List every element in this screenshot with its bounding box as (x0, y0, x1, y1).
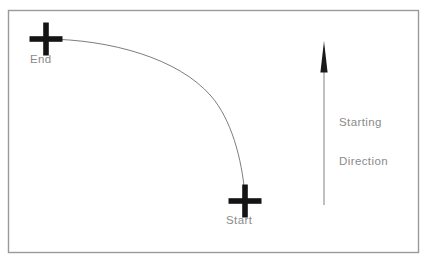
end-marker-label: End (30, 53, 52, 66)
starting-direction-label: Starting Direction (339, 90, 388, 194)
starting-direction-label-line-2: Direction (339, 155, 388, 168)
start-marker-label: Start (226, 214, 252, 227)
diagram-canvas: End Start Starting Direction (0, 0, 427, 265)
starting-direction-label-line-1: Starting (339, 116, 388, 129)
